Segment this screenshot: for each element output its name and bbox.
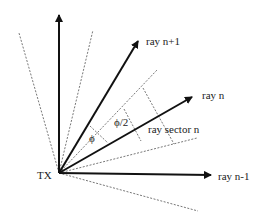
origin-label: TX — [37, 169, 52, 181]
label-ray-n-plus-1: ray n+1 — [146, 35, 180, 47]
sector-upper-boundary — [59, 70, 157, 173]
label-ray-sector: ray sector n — [148, 123, 200, 135]
solid-rays — [59, 15, 211, 175]
label-half-phi: ϕ/2 — [114, 116, 128, 128]
ray-n — [59, 97, 192, 173]
dashed-line-upper-left — [59, 30, 93, 173]
dashed-boundaries — [19, 30, 198, 211]
label-ray-n-minus-1: ray n-1 — [218, 170, 249, 182]
dashed-line-bottom — [59, 173, 198, 211]
label-ray-n: ray n — [202, 89, 225, 101]
ray-sector-diagram: TX ray n+1 ray n ray n-1 ray sector n ϕ … — [0, 0, 263, 221]
ray-n-plus-1 — [59, 41, 138, 173]
label-phi: ϕ — [89, 132, 95, 144]
dashed-line-left — [19, 33, 59, 173]
ray-n-minus-1 — [59, 173, 211, 175]
sector-lower-boundary — [59, 138, 197, 173]
